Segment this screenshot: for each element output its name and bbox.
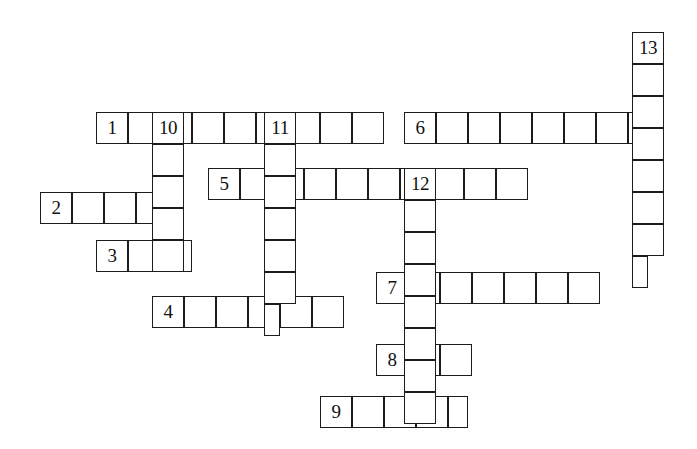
crossword-cell[interactable] bbox=[72, 192, 104, 224]
crossword-cell[interactable] bbox=[404, 296, 436, 328]
crossword-cell[interactable] bbox=[404, 168, 436, 200]
crossword-cell[interactable] bbox=[564, 112, 596, 144]
crossword-cell[interactable] bbox=[632, 128, 664, 160]
crossword-cell[interactable] bbox=[352, 112, 384, 144]
crossword-cell[interactable] bbox=[264, 304, 280, 336]
crossword-grid: 12345678910111213 bbox=[0, 0, 697, 449]
crossword-cell[interactable] bbox=[208, 168, 240, 200]
crossword-cell[interactable] bbox=[264, 272, 296, 304]
crossword-cell[interactable] bbox=[500, 112, 532, 144]
crossword-cell[interactable] bbox=[472, 272, 504, 304]
crossword-cell[interactable] bbox=[468, 112, 500, 144]
crossword-cell[interactable] bbox=[104, 192, 136, 224]
crossword-cell[interactable] bbox=[152, 208, 184, 240]
crossword-cell[interactable] bbox=[404, 360, 436, 392]
crossword-cell[interactable] bbox=[404, 264, 436, 296]
crossword-cell[interactable] bbox=[224, 112, 256, 144]
crossword-cell[interactable] bbox=[432, 168, 464, 200]
crossword-cell[interactable] bbox=[404, 232, 436, 264]
crossword-cell[interactable] bbox=[216, 296, 248, 328]
crossword-cell[interactable] bbox=[404, 200, 436, 232]
crossword-cell[interactable] bbox=[184, 296, 216, 328]
crossword-cell[interactable] bbox=[596, 112, 628, 144]
crossword-cell[interactable] bbox=[464, 168, 496, 200]
crossword-cell[interactable] bbox=[404, 112, 436, 144]
crossword-cell[interactable] bbox=[496, 168, 528, 200]
crossword-cell[interactable] bbox=[352, 396, 384, 428]
crossword-cell[interactable] bbox=[448, 396, 468, 428]
crossword-cell[interactable] bbox=[264, 208, 296, 240]
crossword-cell[interactable] bbox=[96, 240, 128, 272]
crossword-cell[interactable] bbox=[404, 392, 436, 424]
crossword-cell[interactable] bbox=[264, 144, 296, 176]
crossword-cell[interactable] bbox=[264, 112, 296, 144]
crossword-cell[interactable] bbox=[632, 224, 664, 256]
crossword-cell[interactable] bbox=[304, 168, 336, 200]
crossword-cell[interactable] bbox=[192, 112, 224, 144]
crossword-cell[interactable] bbox=[152, 176, 184, 208]
crossword-cell[interactable] bbox=[40, 192, 72, 224]
crossword-cell[interactable] bbox=[632, 160, 664, 192]
crossword-cell[interactable] bbox=[152, 144, 184, 176]
crossword-cell[interactable] bbox=[440, 344, 472, 376]
crossword-cell[interactable] bbox=[632, 32, 664, 64]
crossword-cell[interactable] bbox=[96, 112, 128, 144]
crossword-cell[interactable] bbox=[532, 112, 564, 144]
crossword-cell[interactable] bbox=[152, 296, 184, 328]
crossword-cell[interactable] bbox=[632, 192, 664, 224]
crossword-cell[interactable] bbox=[152, 240, 184, 272]
crossword-cell[interactable] bbox=[436, 112, 468, 144]
crossword-cell[interactable] bbox=[312, 296, 344, 328]
crossword-cell[interactable] bbox=[264, 176, 296, 208]
crossword-cell[interactable] bbox=[320, 112, 352, 144]
crossword-cell[interactable] bbox=[536, 272, 568, 304]
crossword-cell[interactable] bbox=[404, 328, 436, 360]
crossword-cell[interactable] bbox=[568, 272, 600, 304]
crossword-cell[interactable] bbox=[336, 168, 368, 200]
crossword-cell[interactable] bbox=[632, 64, 664, 96]
crossword-cell[interactable] bbox=[264, 240, 296, 272]
crossword-cell[interactable] bbox=[440, 272, 472, 304]
crossword-cell[interactable] bbox=[632, 256, 648, 288]
crossword-cell[interactable] bbox=[368, 168, 400, 200]
crossword-cell[interactable] bbox=[152, 112, 184, 144]
crossword-cell[interactable] bbox=[504, 272, 536, 304]
crossword-cell[interactable] bbox=[320, 396, 352, 428]
crossword-cell[interactable] bbox=[632, 96, 664, 128]
